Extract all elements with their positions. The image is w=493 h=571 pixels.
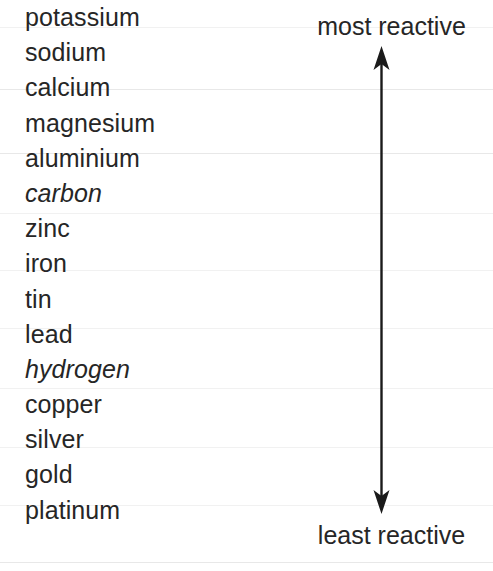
list-item: tin	[25, 282, 265, 317]
list-item: carbon	[25, 176, 265, 211]
list-item: silver	[25, 422, 265, 457]
list-item: gold	[25, 457, 265, 492]
list-item: potassium	[25, 0, 265, 35]
list-item: calcium	[25, 70, 265, 105]
least-reactive-label: least reactive	[290, 521, 493, 550]
list-item: zinc	[25, 211, 265, 246]
list-item: magnesium	[25, 106, 265, 141]
reactivity-series-list: potassium sodium calcium magnesium alumi…	[25, 0, 265, 528]
double-headed-arrow-icon	[290, 44, 493, 516]
reactivity-scale: most reactive least reactive	[290, 0, 493, 571]
list-item: copper	[25, 387, 265, 422]
list-item: hydrogen	[25, 352, 265, 387]
list-item: sodium	[25, 35, 265, 70]
list-item: lead	[25, 317, 265, 352]
reactivity-series-diagram: potassium sodium calcium magnesium alumi…	[0, 0, 493, 571]
list-item: platinum	[25, 493, 265, 528]
list-item: aluminium	[25, 141, 265, 176]
list-item: iron	[25, 246, 265, 281]
most-reactive-label: most reactive	[290, 12, 493, 41]
